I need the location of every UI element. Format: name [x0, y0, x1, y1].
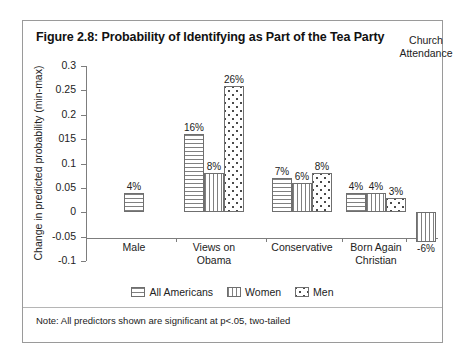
bar-value-label: 4%	[349, 181, 363, 192]
y-axis-tick-label: -0.05	[52, 230, 76, 242]
note-divider	[23, 307, 442, 308]
bar-rect	[184, 134, 204, 212]
x-axis-tick	[406, 238, 407, 242]
bar-value-label: -6%	[417, 243, 435, 254]
y-axis-tick	[81, 188, 86, 189]
x-axis-zero-line	[86, 238, 438, 239]
bar-group: 16%8%26%Views onObama	[184, 66, 244, 212]
x-axis-group-label-line: Born Again	[321, 241, 431, 254]
bar-group: 4%4%3%Born AgainChristian	[346, 66, 406, 212]
x-axis-tick	[176, 238, 177, 242]
x-axis-group-label-line: Attendance	[371, 47, 464, 60]
bar-value-label: 4%	[127, 181, 141, 192]
bar[interactable]: 16%	[184, 134, 204, 212]
bar-group-bars: 16%8%26%	[184, 66, 244, 212]
bar[interactable]: 8%	[312, 173, 332, 212]
y-axis-tick	[81, 164, 86, 165]
legend-item[interactable]: All Americans	[131, 286, 213, 298]
bar-value-label: 7%	[275, 166, 289, 177]
bar-value-label: 16%	[184, 122, 204, 133]
y-axis-tick	[81, 212, 86, 213]
y-axis-tick-label: 0.2	[61, 108, 76, 120]
y-axis-tick-label: 015	[58, 132, 76, 144]
bar-group-bars: 4%	[124, 66, 144, 212]
bar-group: 4%Male	[124, 66, 144, 212]
x-axis-group-label-line: Church	[371, 34, 464, 47]
y-axis-tick-label: 0.3	[61, 59, 76, 71]
x-axis-tick	[342, 238, 343, 242]
bar-rect	[124, 193, 144, 213]
x-axis-tick	[266, 238, 267, 242]
legend-label: Women	[245, 286, 281, 298]
bar-rect	[386, 198, 406, 213]
legend-swatch	[295, 287, 309, 297]
bar-rect	[272, 178, 292, 212]
legend-label: Men	[313, 286, 333, 298]
legend-item[interactable]: Men	[295, 286, 333, 298]
bar[interactable]: 26%	[224, 86, 244, 213]
y-axis-tick-label: -0.1	[58, 254, 76, 266]
bar[interactable]: -6%	[416, 212, 436, 241]
bar-group-bars: 4%4%3%	[346, 66, 406, 212]
bar-rect	[416, 212, 436, 241]
figure-note: Note: All predictors shown are significa…	[36, 315, 290, 326]
bar-rect	[346, 193, 366, 213]
legend-swatch	[227, 287, 241, 297]
bar-value-label: 8%	[207, 161, 221, 172]
bar-rect	[366, 193, 386, 213]
bar-group: 7%6%8%Conservative	[272, 66, 332, 212]
y-axis-tick	[81, 66, 86, 67]
y-axis-tick	[81, 90, 86, 91]
x-axis-group-label: Born AgainChristian	[321, 241, 431, 266]
y-axis-title: Change in predicted probability (min-max…	[32, 66, 44, 261]
bar-value-label: 8%	[315, 161, 329, 172]
bar[interactable]: 6%	[292, 183, 312, 212]
y-axis-tick-label: 0.05	[56, 181, 76, 193]
bar[interactable]: 8%	[204, 173, 224, 212]
y-axis-tick	[81, 237, 86, 238]
bar-value-label: 6%	[295, 171, 309, 182]
bar-rect	[204, 173, 224, 212]
y-axis-tick-label: 0.25	[56, 83, 76, 95]
y-axis-spine	[86, 66, 87, 261]
bar-value-label: 4%	[369, 181, 383, 192]
bar-value-label: 26%	[224, 74, 244, 85]
x-axis-group-label-line: Christian	[321, 254, 431, 267]
y-axis-tick	[81, 139, 86, 140]
bar[interactable]: 7%	[272, 178, 292, 212]
bar-rect	[292, 183, 312, 212]
bar-rect	[224, 86, 244, 213]
chart-plot-area: 0.30.250.20150.10.050-0.05-0.1 Change in…	[86, 66, 438, 261]
figure-title: Figure 2.8: Probability of Identifying a…	[36, 30, 384, 44]
bar[interactable]: 4%	[366, 193, 386, 213]
y-axis-tick-label: 0.1	[61, 157, 76, 169]
bar[interactable]: 4%	[346, 193, 366, 213]
bar-group-bars: 7%6%8%	[272, 66, 332, 212]
bar-group: -6%ChurchAttendance	[416, 66, 436, 212]
y-axis-tick	[81, 261, 86, 262]
chart-legend: All AmericansWomenMen	[23, 286, 442, 298]
bar-rect	[312, 173, 332, 212]
y-axis-tick-label: 0	[70, 205, 76, 217]
figure-frame: Figure 2.8: Probability of Identifying a…	[22, 20, 443, 343]
y-axis-tick	[81, 115, 86, 116]
bar-value-label: 3%	[389, 186, 403, 197]
legend-item[interactable]: Women	[227, 286, 281, 298]
legend-label: All Americans	[149, 286, 213, 298]
bar[interactable]: 4%	[124, 193, 144, 213]
x-axis-group-label-line: Obama	[159, 254, 269, 267]
bar[interactable]: 3%	[386, 198, 406, 213]
legend-swatch	[131, 287, 145, 297]
x-axis-group-label: ChurchAttendance	[371, 34, 464, 59]
